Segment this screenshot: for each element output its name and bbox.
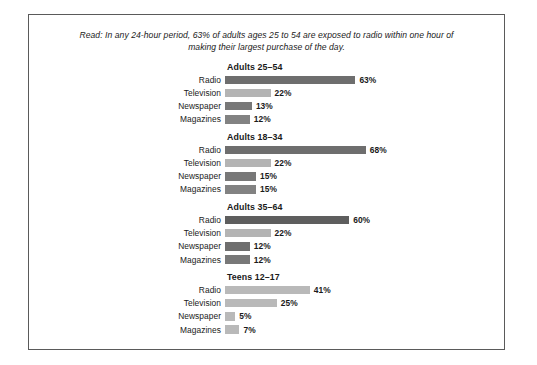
panel-title: Adults 25–54 <box>227 62 504 72</box>
bar-row: Radio41% <box>29 285 504 296</box>
bar-row-label: Magazines <box>29 114 225 124</box>
bar-wrapper: 15% <box>225 184 504 194</box>
bar-value-label: 13% <box>256 101 273 111</box>
bar-row: Radio63% <box>29 74 504 85</box>
bar-value-label: 41% <box>314 285 331 295</box>
chart-panel: Adults 25–54Radio63%Television22%Newspap… <box>29 62 504 125</box>
bar-row-label: Television <box>29 88 225 98</box>
bar-wrapper: 25% <box>225 298 504 308</box>
bar-wrapper: 15% <box>225 171 504 181</box>
bar-row: Television22% <box>29 88 504 99</box>
chart-caption: Read: In any 24-hour period, 63% of adul… <box>73 29 460 54</box>
bar-row: Television25% <box>29 298 504 309</box>
bar <box>225 102 252 111</box>
bar <box>225 146 366 155</box>
bar-row: Magazines15% <box>29 184 504 195</box>
bar-wrapper: 22% <box>225 228 504 238</box>
bar-row-label: Magazines <box>29 255 225 265</box>
bar-row: Magazines12% <box>29 254 504 265</box>
bar-row-label: Newspaper <box>29 241 225 251</box>
bar-value-label: 60% <box>353 215 370 225</box>
bar-row: Newspaper15% <box>29 171 504 182</box>
bar-wrapper: 22% <box>225 158 504 168</box>
bar-row: Magazines7% <box>29 324 504 335</box>
bar-wrapper: 5% <box>225 311 504 321</box>
panel-title: Adults 35–64 <box>227 202 504 212</box>
bar <box>225 115 250 124</box>
bar-value-label: 22% <box>275 228 292 238</box>
bar-wrapper: 41% <box>225 285 504 295</box>
bar <box>225 159 271 168</box>
bar-value-label: 12% <box>254 255 271 265</box>
bar <box>225 286 310 295</box>
bar-value-label: 63% <box>359 75 376 85</box>
bar-row: Television22% <box>29 228 504 239</box>
bar <box>225 242 250 251</box>
bar-value-label: 12% <box>254 241 271 251</box>
bar <box>225 229 271 238</box>
bar-wrapper: 12% <box>225 255 504 265</box>
bar-row-label: Newspaper <box>29 101 225 111</box>
bar-row: Newspaper5% <box>29 311 504 322</box>
bar-wrapper: 63% <box>225 75 504 85</box>
chart-panel: Adults 18–34Radio68%Television22%Newspap… <box>29 132 504 195</box>
bar-row-label: Radio <box>29 145 225 155</box>
bar-wrapper: 12% <box>225 114 504 124</box>
bar-row-label: Newspaper <box>29 171 225 181</box>
bar <box>225 312 235 321</box>
bar-wrapper: 60% <box>225 215 504 225</box>
bar-value-label: 15% <box>260 171 277 181</box>
bar-wrapper: 13% <box>225 101 504 111</box>
bar-value-label: 22% <box>275 158 292 168</box>
bar <box>225 89 271 98</box>
bar <box>225 185 256 194</box>
bar-value-label: 68% <box>370 145 387 155</box>
bar <box>225 76 355 85</box>
bar-row: Newspaper12% <box>29 241 504 252</box>
bar-row: Television22% <box>29 158 504 169</box>
bar-wrapper: 12% <box>225 241 504 251</box>
bar <box>225 255 250 264</box>
bar-row-label: Radio <box>29 215 225 225</box>
bar-wrapper: 22% <box>225 88 504 98</box>
bar-value-label: 15% <box>260 184 277 194</box>
bar <box>225 325 239 334</box>
bar-row: Radio68% <box>29 144 504 155</box>
chart-panel: Adults 35–64Radio60%Television22%Newspap… <box>29 202 504 265</box>
panel-list: Adults 25–54Radio63%Television22%Newspap… <box>29 62 504 335</box>
bar-row: Magazines12% <box>29 114 504 125</box>
panel-title: Teens 12–17 <box>227 272 504 282</box>
bar <box>225 299 277 308</box>
bar-row-label: Television <box>29 228 225 238</box>
bar-value-label: 22% <box>275 88 292 98</box>
bar-row-label: Television <box>29 158 225 168</box>
panel-title: Adults 18–34 <box>227 132 504 142</box>
bar <box>225 216 349 225</box>
bar-row-label: Radio <box>29 75 225 85</box>
bar-row-label: Magazines <box>29 325 225 335</box>
figure-frame: Read: In any 24-hour period, 63% of adul… <box>28 14 505 350</box>
bar-row-label: Radio <box>29 285 225 295</box>
bar-row-label: Newspaper <box>29 311 225 321</box>
bar-value-label: 7% <box>243 325 255 335</box>
bar-value-label: 25% <box>281 298 298 308</box>
bar-row-label: Magazines <box>29 184 225 194</box>
bar-value-label: 12% <box>254 114 271 124</box>
bar-value-label: 5% <box>239 311 251 321</box>
chart-panel: Teens 12–17Radio41%Television25%Newspape… <box>29 272 504 335</box>
bar <box>225 172 256 181</box>
bar-row-label: Television <box>29 298 225 308</box>
bar-row: Radio60% <box>29 214 504 225</box>
bar-wrapper: 68% <box>225 145 504 155</box>
bar-row: Newspaper13% <box>29 101 504 112</box>
bar-wrapper: 7% <box>225 325 504 335</box>
